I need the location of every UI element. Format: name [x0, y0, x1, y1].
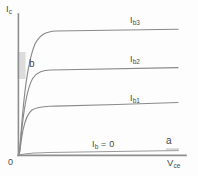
- curve-label-ib-zero-rest: = 0: [98, 139, 114, 149]
- curve-ib3: [19, 29, 178, 155]
- curve-label-ib-zero: Ib = 0: [92, 140, 114, 149]
- cutoff-region-marker: [166, 148, 179, 151]
- chart-canvas: [0, 0, 198, 176]
- curve-label-ib3: Ib3: [130, 16, 140, 25]
- x-axis-label-text: V: [167, 157, 174, 168]
- annotation-label-a: a: [166, 136, 172, 146]
- y-axis-label-subscript: c: [9, 8, 12, 15]
- y-axis-label: Ic: [6, 4, 12, 14]
- curve-label-ib3-subscript: b3: [133, 19, 140, 26]
- curve-label-ib1: Ib1: [130, 94, 140, 103]
- curve-label-ib2-subscript: b2: [133, 58, 140, 65]
- x-axis-label: Vce: [167, 158, 180, 168]
- origin-label: 0: [8, 158, 13, 167]
- curve-label-ib1-subscript: b1: [133, 97, 140, 104]
- curve-label-ib-zero-subscript: b: [95, 143, 99, 150]
- curve-label-ib2: Ib2: [130, 55, 140, 64]
- curve-ib-zero: [19, 150, 178, 155]
- annotation-label-b: b: [29, 59, 35, 69]
- transistor-output-characteristics-figure: Ic Vce 0 Ib3 Ib2 Ib1 Ib = 0 a b: [0, 0, 198, 176]
- x-axis-label-subscript: ce: [174, 162, 181, 169]
